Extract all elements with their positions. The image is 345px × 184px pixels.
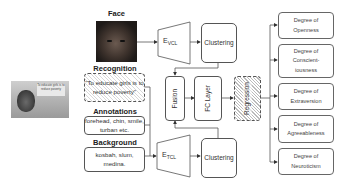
background-box: kosbah, slum, medina. — [84, 147, 145, 172]
output-conscientiousness: Degree ofConscient-iousness — [278, 44, 334, 78]
output-openness-line2: Openness — [293, 26, 319, 36]
face-eye-left — [107, 40, 112, 42]
output-agreeableness-line1: Degree of — [287, 120, 324, 130]
sign-text: To educate girls is to reduce poverty — [37, 84, 65, 96]
face-image — [96, 21, 137, 62]
input-image: To educate girls is to reduce poverty — [11, 81, 69, 118]
recognition-text: "To educate girls is to reduce poverty" — [85, 79, 144, 96]
visual-encoder-sub: VCL — [168, 40, 178, 46]
fusion-box: Fusion — [165, 76, 185, 121]
output-extraversion-line2: Extraversion — [290, 97, 321, 107]
clustering-top-box: Clustering — [201, 23, 237, 63]
textual-encoder-sub: TCL — [167, 154, 176, 160]
regression-text: Regression — [243, 82, 252, 115]
clustering-top-text: Clustering — [204, 39, 233, 48]
output-neuroticism: Degree ofNeuroticism — [278, 148, 334, 175]
output-extraversion: Degree ofExtraversion — [278, 83, 334, 110]
output-conscientiousness-line1: Degree of — [293, 47, 320, 57]
output-neuroticism-line1: Degree of — [291, 152, 321, 162]
face-eye-right — [120, 40, 125, 42]
output-openness: Degree ofOpenness — [278, 12, 334, 39]
clustering-bottom-text: Clustering — [204, 154, 233, 163]
person-figure — [17, 90, 35, 112]
recognition-label: Recognition — [80, 64, 150, 73]
output-conscientiousness-line2: Conscient- — [293, 56, 320, 66]
regression-box: Regression — [234, 76, 261, 121]
textual-encoder-label: ETCL — [162, 151, 176, 160]
annotations-box: forehead, chin, smile, turban etc. — [84, 116, 145, 135]
output-extraversion-line1: Degree of — [290, 87, 321, 97]
clustering-bottom-box: Clustering — [201, 138, 237, 178]
background-label: Background — [80, 138, 150, 147]
fusion-text: Fusion — [171, 89, 180, 109]
background-text: kosbah, slum, medina. — [91, 151, 138, 168]
output-agreeableness-line2: Agreeableness — [287, 129, 324, 139]
annotations-text: forehead, chin, smile, turban etc. — [85, 117, 144, 134]
recognition-box: "To educate girls is to reduce poverty" — [84, 73, 145, 102]
output-openness-line1: Degree of — [293, 16, 319, 26]
fc-layer-box: FC Layer — [194, 76, 222, 121]
fc-layer-text: FC Layer — [204, 85, 213, 112]
visual-encoder-label: EVCL — [163, 37, 177, 46]
face-label: Face — [96, 9, 137, 18]
output-conscientiousness-line3: iousness — [293, 66, 320, 76]
annotations-label: Annotations — [80, 107, 150, 116]
output-agreeableness: Degree ofAgreeableness — [278, 115, 334, 143]
output-neuroticism-line2: Neuroticism — [291, 162, 321, 172]
